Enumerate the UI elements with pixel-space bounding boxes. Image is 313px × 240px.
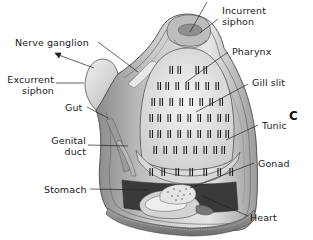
label-tunic: Tunic [262,120,287,131]
label-incurrent-siphon: Incurrent siphon [222,5,266,27]
label-gill-slit: Gill slit [252,77,285,88]
label-nerve-ganglion: Nerve ganglion [15,37,89,48]
gonad-follicle [185,188,187,190]
label-gonad: Gonad [258,158,290,169]
incurrent-siphon-shape [167,15,211,48]
gonad-follicle [173,188,175,190]
label-heart: Heart [250,212,277,223]
label-excurrent-siphon: Excurrent siphon [4,74,54,96]
label-pharynx: Pharynx [232,46,271,57]
panel-letter: C [289,109,298,123]
gonad-follicle [167,191,169,193]
label-gut: Gut [65,102,82,113]
gonad-follicle [189,193,191,195]
label-stomach: Stomach [44,184,87,195]
arrowhead-excurrent [55,53,61,58]
gonad-follicle [177,195,179,197]
gonad-follicle [179,190,181,192]
leader-excurrent-arrow [56,54,94,68]
gonad-follicle [181,198,183,200]
label-genital-duct: Genital duct [38,135,86,157]
gonad-follicle [171,195,173,197]
gonad-follicle [183,194,185,196]
gonad-follicle [175,199,177,201]
